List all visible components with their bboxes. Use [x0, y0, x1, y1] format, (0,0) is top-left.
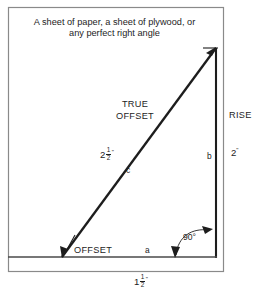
hypotenuse-measurement: 212" [100, 147, 114, 162]
rise-label: RISE [229, 110, 252, 121]
right-angle-label: 90° [183, 233, 196, 243]
base-fraction: 12 [140, 274, 146, 289]
offset-label: OFFSET [74, 245, 112, 256]
caption-line-2: any perfect right angle [12, 28, 217, 39]
right-triangle-diagram: A sheet of paper, a sheet of plywood, or… [0, 0, 257, 294]
base-measurement: 112" [134, 274, 148, 289]
rise-measurement: 2" [231, 147, 238, 158]
true-offset-label-line-2: OFFSET [108, 110, 162, 122]
true-offset-hypotenuse-line [62, 48, 216, 257]
diagram-canvas [0, 0, 257, 294]
rise-inch-mark: " [236, 147, 238, 153]
right-angle-arrow-end-icon [202, 226, 213, 234]
caption-block: A sheet of paper, a sheet of plywood, or… [12, 17, 217, 38]
base-numerator: 1 [140, 274, 146, 281]
hypotenuse-inch-mark: " [112, 149, 114, 155]
caption-line-1: A sheet of paper, a sheet of plywood, or [12, 17, 217, 28]
side-a-label: a [145, 246, 150, 256]
base-whole-number: 1 [134, 276, 139, 287]
hypotenuse-denominator: 2 [106, 154, 112, 162]
base-denominator: 2 [140, 281, 146, 289]
hypotenuse-numerator: 1 [106, 147, 112, 154]
hypotenuse-whole-number: 2 [100, 149, 105, 160]
true-offset-label-line-1: TRUE [108, 98, 162, 110]
base-inch-mark: " [146, 276, 148, 282]
side-c-label: c [126, 166, 130, 176]
side-b-label: b [207, 152, 212, 162]
hypotenuse-fraction: 12 [106, 147, 112, 162]
true-offset-label: TRUE OFFSET [108, 98, 162, 123]
